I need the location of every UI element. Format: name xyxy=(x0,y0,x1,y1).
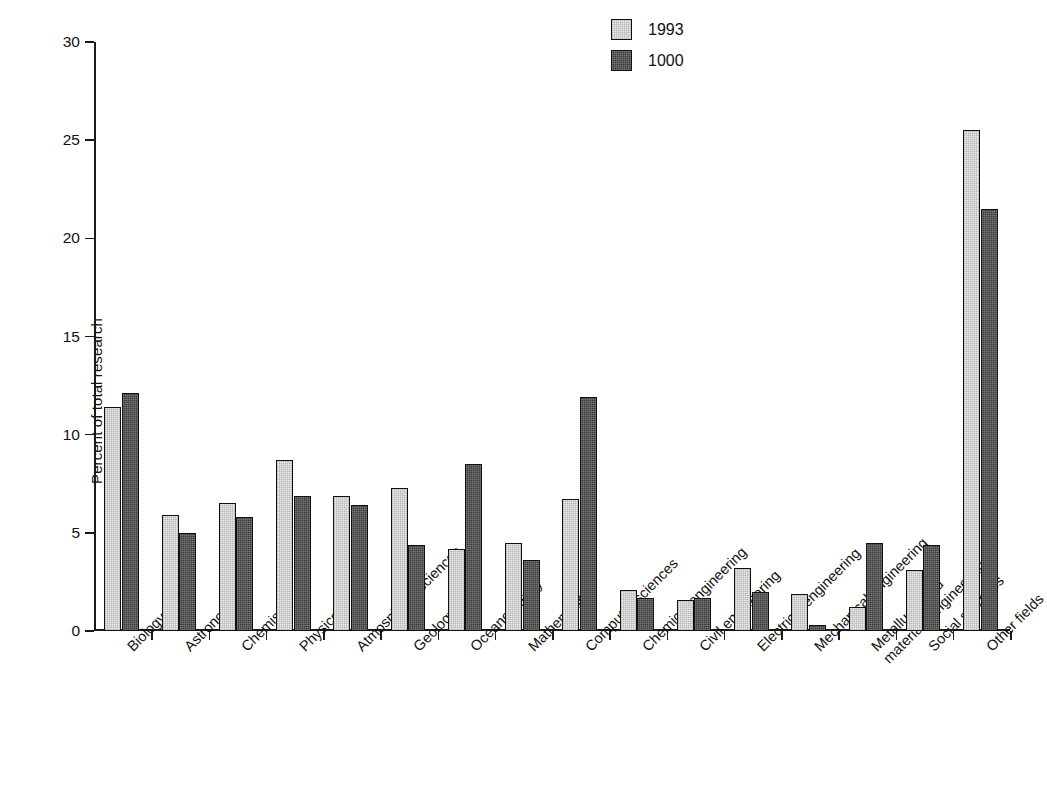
bar-group xyxy=(104,42,139,631)
bar-0 xyxy=(734,568,751,631)
legend-label-series-0: 1993 xyxy=(648,21,684,39)
bar-0 xyxy=(276,460,293,631)
bar-1 xyxy=(294,496,311,631)
y-axis-tick-label: 15 xyxy=(63,328,80,346)
bar-0 xyxy=(906,570,923,631)
bar-group xyxy=(333,42,368,631)
bar-group xyxy=(448,42,483,631)
bar-1 xyxy=(465,464,482,631)
bar-1 xyxy=(523,560,540,631)
bar-0 xyxy=(391,488,408,631)
bar-1 xyxy=(694,598,711,631)
y-axis-tick xyxy=(85,434,94,436)
y-axis-tick-label: 30 xyxy=(63,33,80,51)
bar-group xyxy=(276,42,311,631)
bar-0 xyxy=(620,590,637,631)
bar-1 xyxy=(981,209,998,631)
bar-1 xyxy=(179,533,196,631)
bar-group xyxy=(963,42,998,631)
bar-group xyxy=(391,42,426,631)
bar-0 xyxy=(849,607,866,631)
bar-group xyxy=(505,42,540,631)
bar-0 xyxy=(162,515,179,631)
y-axis-tick xyxy=(85,139,94,141)
plot-area: 051015202530BiologyAstronomyChemistryPhy… xyxy=(94,42,1010,631)
bar-1 xyxy=(637,598,654,631)
y-axis-tick-label: 20 xyxy=(63,229,80,247)
bar-0 xyxy=(104,407,121,631)
bar-0 xyxy=(791,594,808,631)
bar-group xyxy=(162,42,197,631)
bar-1 xyxy=(408,545,425,631)
bar-group xyxy=(906,42,941,631)
bar-1 xyxy=(236,517,253,631)
y-axis-tick xyxy=(85,630,94,632)
y-axis-tick-label: 10 xyxy=(63,426,80,444)
bar-0 xyxy=(219,503,236,631)
bar-1 xyxy=(752,592,769,631)
bar-group xyxy=(677,42,712,631)
bar-group xyxy=(791,42,826,631)
y-axis-tick-label: 25 xyxy=(63,131,80,149)
y-axis-tick-label: 0 xyxy=(71,622,80,640)
bar-group xyxy=(620,42,655,631)
bar-1 xyxy=(866,543,883,631)
legend-item-series-0: 1993 xyxy=(611,14,684,45)
bar-group xyxy=(734,42,769,631)
bar-1 xyxy=(923,545,940,631)
bar-1 xyxy=(122,393,139,631)
bar-0 xyxy=(333,496,350,631)
bar-0 xyxy=(562,499,579,631)
y-axis-tick-label: 5 xyxy=(71,524,80,542)
y-axis-tick xyxy=(85,532,94,534)
y-axis-tick xyxy=(85,238,94,240)
y-axis-line xyxy=(94,42,96,631)
bar-group xyxy=(562,42,597,631)
bar-group xyxy=(849,42,884,631)
bar-1 xyxy=(351,505,368,631)
legend-swatch-icon-series-0 xyxy=(611,19,632,40)
bar-0 xyxy=(448,549,465,631)
y-axis-tick xyxy=(85,336,94,338)
bar-1 xyxy=(580,397,597,631)
y-axis-tick xyxy=(85,41,94,43)
bar-0 xyxy=(505,543,522,631)
bar-group xyxy=(219,42,254,631)
bar-0 xyxy=(963,130,980,631)
bar-0 xyxy=(677,600,694,631)
